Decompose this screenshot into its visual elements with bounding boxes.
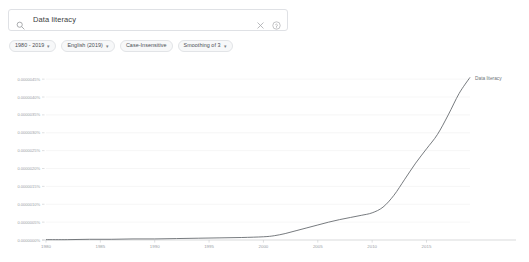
search-input[interactable]: Data literacy <box>33 16 249 24</box>
series-legend-label[interactable]: Data literacy <box>475 76 502 81</box>
x-axis-tick-label: 1980 <box>41 244 51 249</box>
x-axis-tick-label: 2000 <box>259 244 269 249</box>
search-input-container[interactable]: Data literacy <box>8 9 288 31</box>
x-axis-tick-label: 2015 <box>422 244 432 249</box>
chart-canvas[interactable]: 0.0000045%0.0000040%0.0000035%0.0000030%… <box>0 62 529 262</box>
search-icon <box>16 16 25 25</box>
y-axis-tick-label: 0.0000025% <box>18 148 41 153</box>
chevron-down-icon: ▾ <box>224 44 227 49</box>
series-path-data-literacy[interactable] <box>46 77 470 239</box>
y-axis-tick-label: 0.0000020% <box>18 166 41 171</box>
chart-y-axis-labels: 0.0000045%0.0000040%0.0000035%0.0000030%… <box>18 77 41 243</box>
ngram-chart[interactable]: 0.0000045%0.0000040%0.0000035%0.0000030%… <box>0 62 529 262</box>
chevron-down-icon: ▾ <box>106 44 109 49</box>
chip-date-range[interactable]: 1980 - 2019 ▾ <box>9 40 56 52</box>
filter-chip-row: 1980 - 2019 ▾ English (2019) ▾ Case-Inse… <box>9 40 233 52</box>
chip-corpus[interactable]: English (2019) ▾ <box>61 40 115 52</box>
search-bar[interactable]: Data literacy <box>8 9 288 31</box>
x-axis-tick-label: 2010 <box>367 244 377 249</box>
y-axis-tick-label: 0.0000030% <box>18 130 41 135</box>
chip-date-range-label: 1980 - 2019 <box>15 43 44 48</box>
y-axis-tick-label: 0.0000010% <box>18 202 41 207</box>
chart-series-label[interactable]: Data literacy <box>475 76 502 81</box>
y-axis-tick-label: 0.0000035% <box>18 112 41 117</box>
chip-corpus-label: English (2019) <box>67 43 102 48</box>
x-axis-tick-label: 1985 <box>95 244 105 249</box>
close-icon[interactable] <box>256 16 265 25</box>
chart-x-axis-labels: 19801985199019952000200520102015 <box>41 244 432 249</box>
chart-gridlines <box>42 79 470 240</box>
y-axis-tick-label: 0.0000005% <box>18 220 41 225</box>
help-circle-icon[interactable] <box>272 16 281 25</box>
x-axis-tick-label: 2005 <box>313 244 323 249</box>
chip-smoothing[interactable]: Smoothing of 3 ▾ <box>178 40 233 52</box>
chip-case-sensitivity-label: Case-Insensitive <box>126 43 167 48</box>
chart-series-line[interactable] <box>46 77 470 239</box>
chip-smoothing-label: Smoothing of 3 <box>184 43 221 48</box>
chevron-down-icon: ▾ <box>47 44 50 49</box>
chart-x-axis <box>42 240 516 243</box>
y-axis-tick-label: 0.0000045% <box>18 77 41 82</box>
y-axis-tick-label: 0.0000040% <box>18 95 41 100</box>
y-axis-tick-label: 0.0000000% <box>18 238 41 243</box>
x-axis-tick-label: 1995 <box>204 244 214 249</box>
chip-case-sensitivity[interactable]: Case-Insensitive <box>120 40 173 52</box>
x-axis-tick-label: 1990 <box>150 244 160 249</box>
y-axis-tick-label: 0.0000015% <box>18 184 41 189</box>
